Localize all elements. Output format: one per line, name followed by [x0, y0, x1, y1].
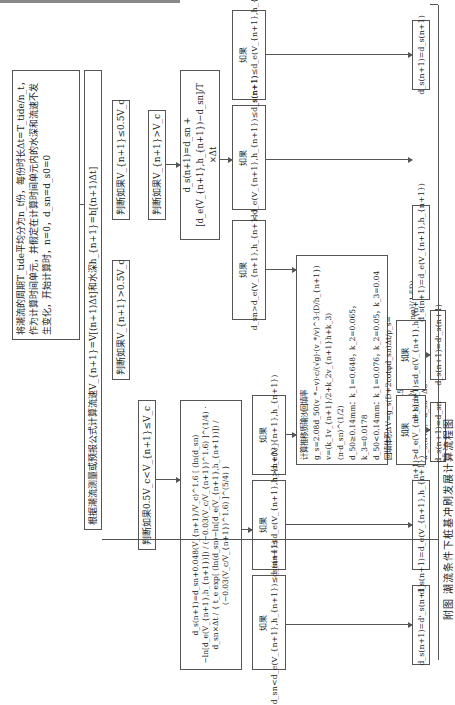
- backfill-calc-box: 计算推移质输沙回填率g_s=2.08d_50(v_*−v)·c/(√g)·(v_…: [296, 255, 388, 465]
- result-2-text: d_s(n+1)=d_e(V_{n+1},h_{n+1}): [415, 456, 428, 595]
- formula-clear-water-box: d_s(n+1)=d_sn+0.048(V_{n+1}/V_c)^1.6 [ (…: [180, 400, 242, 670]
- if-b3-text: 如果 d_sn<d_e(V_{n+1},h_{n+1})≤d_s(n+1): [258, 540, 280, 704]
- cond-high-text: 判断如果V_{n+1}>V_c: [152, 114, 162, 215]
- connector: [166, 164, 180, 165]
- connector: [80, 204, 84, 205]
- connector: [286, 434, 296, 435]
- result-1-text: d_s(n+1)=d'_s(n+1): [415, 584, 428, 666]
- cond-low-text: 判断如果V_{n+1}≤0.5V_c: [116, 100, 126, 215]
- cond-mid-branch-box: 判断如果V_{n+1}>0.5V_c: [112, 260, 130, 380]
- connector: [426, 354, 430, 355]
- cond-mid-box: 判断如果0.5V_c<V_{n+1}≤V_c: [138, 400, 156, 550]
- formula-live-bed-box: d_s(n+1)=d_sn + [d_e(V_{n+1},h_{n+1})−d_…: [180, 70, 220, 240]
- result-5-text: d_s(n+1)=d_e(V_{n+1},h_{n+1}): [415, 183, 428, 322]
- result-6-text: d_s(n+1)=d_s(n+1): [415, 15, 428, 95]
- result-box-1: d_s(n+1)=d'_s(n+1): [412, 585, 430, 665]
- cond-high-box: 判断如果V_{n+1}>V_c: [148, 110, 166, 220]
- cond-mid-branch-text: 判断如果V_{n+1}>0.5V_c: [116, 260, 126, 375]
- connector: [266, 159, 412, 160]
- result-box-2: d_s(n+1)=d_e(V_{n+1},h_{n+1}): [412, 480, 430, 570]
- if-a3-text: 如果 d_sn>d_e(V_{n+1},h_{n+1}): [238, 210, 260, 331]
- cond-mid-text: 判断如果0.5V_c<V_{n+1}≤V_c: [142, 406, 152, 545]
- connector: [286, 524, 412, 525]
- backfill-line-1: 计算推移质输沙回填率g_s=2.08d_50(v_*−v)·c/(√g)·(v_…: [299, 260, 323, 460]
- init-box: 将潮流的周期T_tide平均分为n_t份，每份时长Δt=T_tide/n_t，作…: [12, 70, 80, 340]
- result-box-5: d_s(n+1)=d_e(V_{n+1},h_{n+1}): [412, 205, 430, 300]
- if-c2-box: 如果 d'_s(n+1)≤d_e(V_{n+1},h_{n+1}): [396, 320, 426, 390]
- backfill-line-3: d_50≥0.14mm：k_1=0.648，k_2=0.065，k_3=0.01…: [347, 260, 371, 460]
- connector: [430, 4, 438, 5]
- connector: [242, 529, 252, 530]
- predict-text: 根据潮流测量或预报公式计算流速V_{n+1}=V[(n+1)Δt]和水深h_{n…: [88, 167, 98, 525]
- connector: [438, 5, 439, 660]
- connector: [156, 479, 180, 480]
- cond-low-box: 判断如果V_{n+1}≤0.5V_c: [112, 100, 130, 220]
- init-text: 将潮流的周期T_tide平均分为n_t份，每份时长Δt=T_tide/n_t，作…: [16, 77, 52, 335]
- connector: [266, 54, 412, 55]
- loop-back-line: [102, 539, 438, 540]
- if-a3-box: 如果 d_sn>d_e(V_{n+1},h_{n+1}): [232, 220, 266, 320]
- formula-live-bed-text: d_s(n+1)=d_sn + [d_e(V_{n+1},h_{n+1})−d_…: [181, 75, 220, 235]
- connector: [426, 429, 430, 430]
- figure-caption: 附图 潮流条件下桩基冲刷发展计算流程图: [440, 418, 455, 620]
- backfill-line-2: v=(k_1v_{n+1}/2+k_2v_{n+1}h+k_3)(π·d_sn)…: [323, 260, 347, 460]
- formula-clear-water-text: d_s(n+1)=d_sn+0.048(V_{n+1}/V_c)^1.6 [ (…: [191, 405, 231, 665]
- result-box-6: d_s(n+1)=d_s(n+1): [412, 20, 430, 90]
- predict-box: 根据潮流测量或预报公式计算流速V_{n+1}=V[(n+1)Δt]和水深h_{n…: [84, 70, 102, 530]
- backfill-line-4: d_50<0.14mm：k_1=0.076，k_2=0.05，k_3=0.04: [371, 260, 383, 460]
- if-b3-box: 如果 d_sn<d_e(V_{n+1},h_{n+1})≤d_s(n+1): [252, 575, 286, 670]
- connector: [220, 159, 232, 160]
- connector: [266, 269, 296, 270]
- if-a2-box: 如果 d_sn<d_e(V_{n+1},h_{n+1})≤d_s(n+1): [232, 105, 266, 210]
- connector: [286, 624, 412, 625]
